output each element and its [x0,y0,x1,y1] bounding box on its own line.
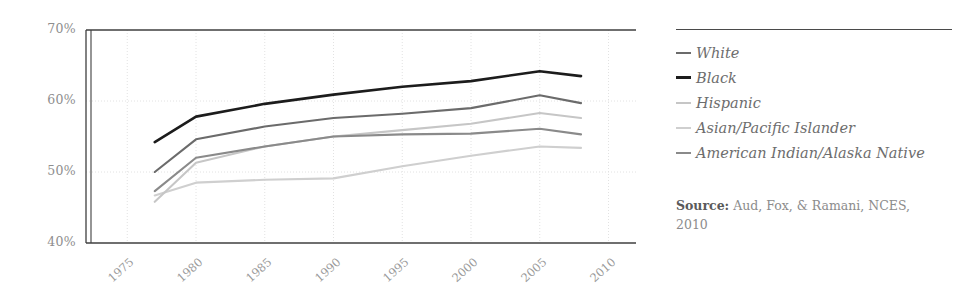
source-label: Source: [676,198,729,213]
legend-item[interactable]: White [676,40,960,65]
legend-item[interactable]: Asian/Pacific Islander [676,115,960,140]
legend-item-label: American Indian/Alaska Native [696,145,925,161]
plot-area [0,0,660,287]
y-axis-tick-label: 50% [32,163,76,178]
line-chart: 70%60%50%40% 197519801985199019952000200… [0,0,660,287]
legend-item[interactable]: Hispanic [676,90,960,115]
y-axis-tick-label: 40% [32,234,76,249]
figure-root: 70%60%50%40% 197519801985199019952000200… [0,0,960,287]
y-axis-tick-label: 70% [32,21,76,36]
legend: WhiteBlackHispanicAsian/Pacific Islander… [676,0,960,287]
legend-item[interactable]: Black [676,65,960,90]
legend-swatch-line-icon [676,76,691,79]
legend-swatch-line-icon [676,152,691,154]
legend-item-label: Black [696,70,737,86]
source-note: Source: Aud, Fox, & Ramani, NCES, 2010 [676,196,944,235]
legend-top-rule [676,29,952,30]
legend-item-label: White [696,45,739,61]
legend-item-label: Asian/Pacific Islander [696,120,855,136]
y-axis-tick-label: 60% [32,92,76,107]
legend-swatch-line-icon [676,52,691,54]
series-line [155,71,581,142]
legend-item[interactable]: American Indian/Alaska Native [676,140,960,165]
legend-items: WhiteBlackHispanicAsian/Pacific Islander… [676,40,960,165]
series-lines [155,71,581,202]
legend-swatch-line-icon [676,102,691,104]
legend-item-label: Hispanic [696,95,761,111]
series-line [155,113,581,202]
legend-swatch-line-icon [676,127,691,129]
